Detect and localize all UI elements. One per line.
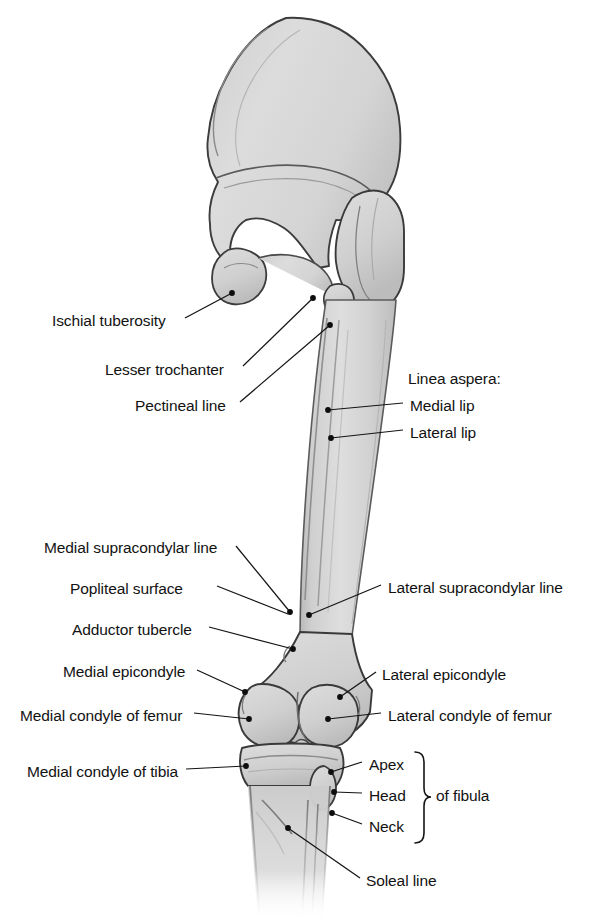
bone-illustration: [0, 0, 598, 922]
leader-neck: [332, 813, 362, 824]
leader-adductor-tubercle: [209, 627, 293, 649]
label-medial-condyle-of-femur: Medial condyle of femur: [20, 707, 182, 724]
femoral-shaft: [300, 300, 396, 646]
label-lesser-trochanter: Lesser trochanter: [105, 361, 224, 378]
label-popliteal-surface: Popliteal surface: [70, 580, 183, 597]
leader-lesser-trochanter: [243, 298, 313, 366]
label-adductor-tubercle: Adductor tubercle: [72, 621, 192, 638]
label-soleal-line: Soleal line: [366, 872, 436, 889]
label-lateral-supracondylar-line: Lateral supracondylar line: [388, 579, 563, 596]
label-medial-epicondyle: Medial epicondyle: [63, 663, 185, 680]
label-linea-aspera-heading: Linea aspera:: [408, 370, 501, 387]
label-lateral-epicondyle: Lateral epicondyle: [382, 666, 506, 683]
label-apex: Apex: [369, 756, 404, 773]
label-medial-condyle-of-tibia: Medial condyle of tibia: [27, 763, 178, 780]
leader-popliteal-surface: [217, 586, 288, 614]
label-pectineal-line: Pectineal line: [135, 397, 226, 414]
label-head: Head: [369, 787, 406, 804]
leader-ischial-tuberosity: [185, 293, 232, 318]
label-medial-lip: Medial lip: [410, 397, 474, 414]
tibial-shaft: [248, 786, 330, 922]
leader-medial-epicondyle: [197, 670, 245, 692]
label-lateral-lip: Lateral lip: [410, 424, 476, 441]
label-lateral-condyle-of-femur: Lateral condyle of femur: [388, 707, 552, 724]
label-of-fibula: of fibula: [436, 787, 489, 804]
label-neck: Neck: [369, 818, 404, 835]
label-medial-supracondylar-line: Medial supracondylar line: [44, 539, 217, 556]
leader-head: [334, 792, 362, 793]
leader-medial-condyle-tibia: [186, 766, 246, 769]
anatomy-figure: Ischial tuberosity Lesser trochanter Pec…: [0, 0, 598, 922]
leader-medial-supracondylar-line: [236, 546, 290, 612]
distal-femur: [239, 632, 372, 762]
label-ischial-tuberosity: Ischial tuberosity: [52, 312, 166, 329]
curly-brace-icon: [415, 752, 431, 843]
ischial-tuberosity-shape: [212, 248, 266, 304]
